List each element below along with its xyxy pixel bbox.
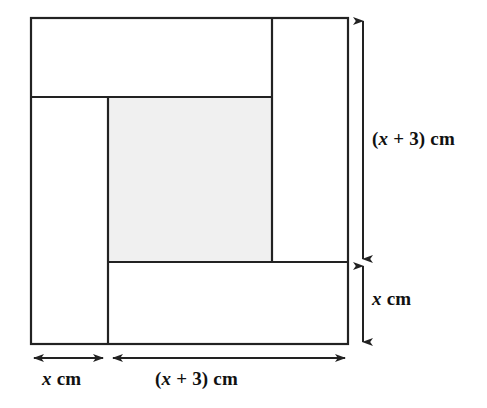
figure-root: (x + 3) cm x cm x cm (x + 3) cm	[0, 0, 487, 408]
dimension-label-right-bottom: x cm	[372, 288, 411, 310]
label-bottom-right-suffix: + 3) cm	[171, 368, 238, 389]
label-right-bottom-variable: x	[372, 288, 382, 309]
label-bottom-right-variable: x	[162, 368, 172, 389]
label-right-height-suffix: + 3) cm	[388, 128, 455, 149]
dimension-label-bottom-left: x cm	[42, 368, 81, 390]
label-right-height-variable: x	[379, 128, 389, 149]
dimension-label-bottom-right: (x + 3) cm	[155, 368, 238, 390]
dimension-label-right-height: (x + 3) cm	[372, 128, 455, 150]
shaded-inner-rectangle	[108, 97, 272, 262]
label-bottom-left-suffix: cm	[52, 368, 82, 389]
label-bottom-left-variable: x	[42, 368, 52, 389]
label-right-bottom-suffix: cm	[382, 288, 412, 309]
diagram-svg	[0, 0, 487, 408]
